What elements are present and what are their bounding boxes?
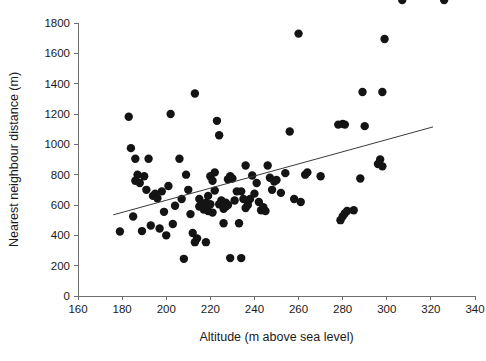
data-point (237, 187, 245, 195)
y-tick-label: 200 (51, 260, 70, 272)
x-tick-label: 180 (113, 303, 132, 315)
data-point (164, 182, 172, 190)
data-point (230, 196, 238, 204)
data-point (191, 89, 199, 97)
data-point (358, 88, 366, 96)
data-point (303, 168, 311, 176)
data-point (261, 207, 269, 215)
data-point (398, 0, 406, 4)
y-tick-label: 1800 (44, 17, 70, 29)
chart-canvas: 020040060080010001200140016001800 160180… (0, 0, 486, 361)
data-point (166, 110, 174, 118)
data-point (127, 144, 135, 152)
data-point (147, 221, 155, 229)
data-point (129, 212, 137, 220)
data-point (215, 131, 223, 139)
x-tick-label: 240 (245, 303, 264, 315)
data-points-layer (116, 0, 449, 263)
y-tick-label: 600 (51, 199, 70, 211)
x-axis-ticks: 160180200220240260280300320340 (68, 296, 484, 315)
x-tick-label: 280 (333, 303, 352, 315)
x-axis-title: Altitude (m above sea level) (199, 330, 353, 344)
data-point (162, 231, 170, 239)
data-point (211, 168, 219, 176)
data-point (294, 29, 302, 37)
data-point (202, 238, 210, 246)
data-point (440, 0, 448, 4)
y-tick-label: 400 (51, 229, 70, 241)
y-axis-title: Nearest neighbour distance (m) (7, 72, 21, 247)
data-point (356, 174, 364, 182)
data-point (268, 186, 276, 194)
data-point (237, 254, 245, 262)
data-point (272, 176, 280, 184)
data-point (250, 189, 258, 197)
data-point (158, 187, 166, 195)
data-point (380, 35, 388, 43)
data-point (193, 234, 201, 242)
data-point (235, 219, 243, 227)
data-point (116, 227, 124, 235)
data-point (263, 161, 271, 169)
data-point (186, 210, 194, 218)
data-point (281, 169, 289, 177)
trend-line (113, 127, 433, 215)
data-point (349, 206, 357, 214)
data-point (184, 186, 192, 194)
data-point (206, 200, 214, 208)
data-point (219, 219, 227, 227)
data-point (213, 117, 221, 125)
data-point (241, 161, 249, 169)
data-point (252, 179, 260, 187)
data-point (138, 227, 146, 235)
data-point (204, 192, 212, 200)
data-point (226, 254, 234, 262)
data-point (169, 220, 177, 228)
data-point (131, 155, 139, 163)
data-point (316, 172, 324, 180)
y-tick-label: 0 (64, 290, 70, 302)
x-tick-label: 160 (68, 303, 87, 315)
data-point (140, 172, 148, 180)
data-point (125, 113, 133, 121)
data-point (171, 202, 179, 210)
data-point (155, 224, 163, 232)
data-point (182, 170, 190, 178)
y-tick-label: 800 (51, 169, 70, 181)
data-point (208, 208, 216, 216)
y-tick-label: 1400 (44, 78, 70, 90)
x-tick-label: 300 (377, 303, 396, 315)
data-point (175, 155, 183, 163)
data-point (297, 198, 305, 206)
data-point (378, 88, 386, 96)
data-point (341, 120, 349, 128)
x-tick-label: 340 (465, 303, 484, 315)
data-point (142, 186, 150, 194)
y-axis-ticks: 020040060080010001200140016001800 (44, 17, 78, 302)
y-tick-label: 1600 (44, 47, 70, 59)
data-point (277, 189, 285, 197)
x-tick-label: 320 (421, 303, 440, 315)
y-tick-label: 1200 (44, 108, 70, 120)
scatter-chart: 020040060080010001200140016001800 160180… (0, 0, 486, 361)
data-point (144, 155, 152, 163)
data-point (286, 127, 294, 135)
y-tick-label: 1000 (44, 138, 70, 150)
data-point (160, 208, 168, 216)
data-point (180, 255, 188, 263)
x-tick-label: 220 (201, 303, 220, 315)
x-tick-label: 260 (289, 303, 308, 315)
data-point (361, 122, 369, 130)
data-point (378, 162, 386, 170)
x-tick-label: 200 (157, 303, 176, 315)
data-point (208, 177, 216, 185)
